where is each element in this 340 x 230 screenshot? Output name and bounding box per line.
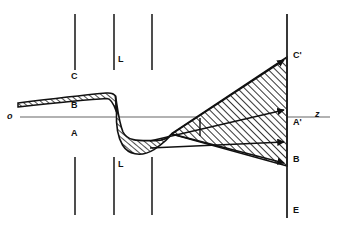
screen-label-e: E — [293, 206, 299, 215]
ray-diagram-figure: o C B A L L C' A' B E z — [0, 0, 340, 230]
diagram-canvas — [0, 0, 340, 230]
beam-waist-lobe — [116, 96, 173, 154]
image-label-a-prime: A' — [293, 118, 302, 127]
incoming-beam-band — [18, 93, 117, 112]
axis-label-z: z — [315, 110, 320, 119]
lens-label-bottom: L — [118, 160, 124, 169]
point-label-b: B — [71, 101, 78, 110]
point-label-a: A — [71, 129, 78, 138]
aperture-bars-bottom — [75, 157, 152, 215]
point-label-c: C — [71, 72, 78, 81]
aperture-bars-top — [75, 14, 152, 70]
image-label-c-prime: C' — [293, 51, 302, 60]
lens-label-top: L — [118, 55, 124, 64]
origin-label: o — [7, 112, 13, 121]
image-label-b: B — [293, 155, 300, 164]
